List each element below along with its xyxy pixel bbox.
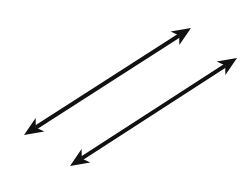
line-1 [24, 28, 191, 135]
line-segment [82, 66, 225, 159]
line-segment [36, 36, 179, 128]
arrowhead-icon [24, 118, 44, 135]
arrowhead-icon [171, 28, 191, 45]
line-2 [70, 58, 237, 166]
arrowhead-icon [217, 58, 237, 75]
arrowhead-icon [70, 149, 90, 166]
parallel-lines-diagram [0, 0, 245, 186]
